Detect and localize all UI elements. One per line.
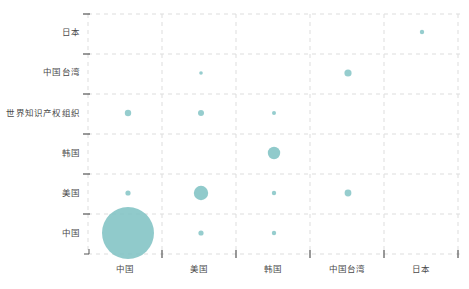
y-axis-ticks [83, 14, 90, 214]
x-axis-label: 日本 [412, 265, 430, 274]
bubble-series [102, 30, 424, 259]
y-axis-label: 日本 [62, 28, 80, 37]
bubble-point[interactable] [272, 191, 276, 195]
bubble-point[interactable] [125, 190, 130, 195]
bubble-chart: 日本中国台湾世界知识产权组织韩国美国中国 中国美国韩国中国台湾日本 [0, 0, 469, 289]
x-axis-label: 韩国 [264, 265, 282, 274]
y-axis-label: 韩国 [62, 149, 80, 158]
bubble-point[interactable] [194, 186, 208, 200]
bubble-point[interactable] [345, 190, 352, 197]
bubble-point[interactable] [198, 230, 203, 235]
bubble-point[interactable] [272, 231, 276, 235]
bubble-point[interactable] [268, 147, 280, 159]
bubble-point[interactable] [198, 110, 204, 116]
chart-canvas [0, 0, 469, 289]
y-axis-label: 中国 [62, 229, 80, 238]
bubble-point[interactable] [420, 30, 424, 34]
y-axis-label: 美国 [62, 189, 80, 198]
bubble-point[interactable] [102, 207, 154, 259]
bubble-point[interactable] [125, 110, 131, 116]
bubble-point[interactable] [199, 71, 203, 75]
bubble-point[interactable] [272, 111, 276, 115]
y-axis-label: 世界知识产权组织 [6, 109, 80, 118]
x-axis-label: 美国 [190, 265, 208, 274]
x-axis-ticks [162, 250, 458, 258]
x-axis-label: 中国 [116, 265, 134, 274]
y-axis-label: 中国台湾 [43, 68, 80, 77]
bubble-point[interactable] [344, 69, 351, 76]
x-axis-label: 中国台湾 [329, 265, 366, 274]
